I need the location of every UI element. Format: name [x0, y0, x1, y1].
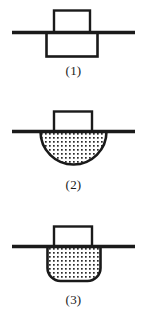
- vessel-body-u-shape: [48, 247, 101, 282]
- figure-3: (3): [0, 215, 147, 326]
- figure-2-graphic: [0, 100, 147, 176]
- figure-3-caption: (3): [0, 292, 147, 308]
- vessel-body-semicircle: [41, 132, 107, 165]
- figure-1: (1): [0, 0, 147, 110]
- figure-1-graphic: [0, 0, 147, 62]
- neck-rectangle: [54, 112, 92, 132]
- figure-2: (2): [0, 100, 147, 210]
- neck-rectangle: [54, 11, 90, 33]
- neck-rectangle: [54, 227, 92, 247]
- figure-2-caption: (2): [0, 177, 147, 193]
- figure-3-graphic: [0, 215, 147, 291]
- figure-1-caption: (1): [0, 63, 147, 79]
- diagram-sheet: (1) (2): [0, 0, 147, 326]
- vessel-body-rectangle: [47, 33, 98, 57]
